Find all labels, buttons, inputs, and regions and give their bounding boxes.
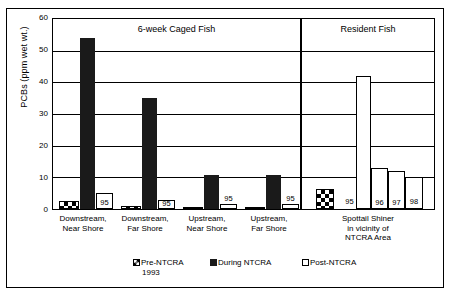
bar-post-ntcra-downstream-far-shore[interactable]: 95: [158, 200, 175, 209]
bar-during-ntcra-downstream-far-shore[interactable]: [142, 98, 157, 209]
bar-year-label: 95: [97, 199, 112, 207]
legend-label-during-ntcra: During NTCRA: [218, 258, 271, 267]
legend-swatch-pre-ntcra-icon: [133, 259, 140, 266]
legend-sublabel-pre-ntcra-year: 1993: [142, 268, 184, 278]
bar-year-label: 97: [389, 199, 404, 207]
bar-post-ntcra-spottail-shiner-96[interactable]: 96: [371, 168, 388, 209]
bar-year-label: 95: [342, 198, 357, 206]
x-label-line-1: Upstream,: [238, 214, 300, 224]
x-label-downstream-far-shore: Downstream, Far Shore: [114, 214, 176, 233]
x-label-line-2: in vicinity of: [302, 224, 434, 234]
x-label-upstream-near-shore: Upstream, Near Shore: [176, 214, 238, 233]
bar-group-downstream-near-shore: 95: [53, 19, 115, 209]
x-label-line-2: Near Shore: [176, 224, 238, 234]
y-tick-30: 30: [14, 110, 48, 118]
x-label-line-2: Far Shore: [238, 224, 300, 234]
bar-during-ntcra-downstream-near-shore[interactable]: [80, 38, 95, 209]
bar-post-ntcra-upstream-near-shore[interactable]: [220, 204, 237, 209]
bar-post-ntcra-upstream-far-shore[interactable]: [282, 204, 299, 209]
bar-group-upstream-near-shore: 95: [177, 19, 239, 209]
y-tick-40: 40: [14, 78, 48, 86]
y-tick-0: 0: [14, 206, 48, 214]
bar-year-label: 96: [372, 199, 387, 207]
bar-post-ntcra-spottail-shiner-97[interactable]: 97: [388, 171, 405, 209]
plot-area: 6-week Caged Fish Resident Fish 95 95 95: [52, 18, 435, 210]
legend-swatch-post-ntcra-icon: [302, 259, 309, 266]
bar-post-ntcra-spottail-shiner-98[interactable]: 98: [405, 177, 423, 209]
y-tick-20: 20: [14, 142, 48, 150]
bar-pre-ntcra-upstream-far-shore[interactable]: [245, 207, 265, 209]
chart-legend: Pre-NTCRA 1993 During NTCRA Post-NTCRA: [52, 252, 435, 282]
x-label-line-2: Far Shore: [114, 224, 176, 234]
x-label-line-2: Near Shore: [52, 224, 114, 234]
x-label-spottail-shiner: Spottail Shiner in vicinity of NTCRA Are…: [302, 214, 434, 243]
y-tick-10: 10: [14, 174, 48, 182]
y-tick-60: 60: [14, 14, 48, 22]
x-label-line-1: Downstream,: [114, 214, 176, 224]
legend-label-pre-ntcra: Pre-NTCRA: [141, 258, 184, 267]
chart-page: PCBs (ppm wet wt.) 60 50 40 30 20 10 0 6…: [0, 0, 452, 296]
bar-year-label: 98: [406, 198, 422, 206]
bar-year-label: 95: [159, 200, 174, 208]
bar-pre-ntcra-upstream-near-shore[interactable]: [183, 207, 203, 209]
legend-item-pre-ntcra[interactable]: Pre-NTCRA 1993: [133, 258, 184, 277]
legend-item-post-ntcra[interactable]: Post-NTCRA: [302, 258, 356, 268]
legend-swatch-during-ntcra-icon: [210, 259, 217, 266]
bar-during-ntcra-upstream-far-shore[interactable]: [266, 175, 281, 209]
legend-label-post-ntcra: Post-NTCRA: [310, 258, 356, 267]
x-label-line-1: Spottail Shiner: [302, 214, 434, 224]
bar-pre-ntcra-downstream-near-shore[interactable]: [59, 201, 79, 209]
bar-post-ntcra-downstream-near-shore[interactable]: 95: [96, 193, 113, 209]
x-label-line-1: Upstream,: [176, 214, 238, 224]
legend-item-during-ntcra[interactable]: During NTCRA: [210, 258, 271, 268]
bar-group-upstream-far-shore: 95: [239, 19, 301, 209]
y-tick-50: 50: [14, 46, 48, 54]
bar-post-ntcra-spottail-shiner-95[interactable]: 95: [356, 76, 371, 209]
bar-pre-ntcra-spottail-shiner[interactable]: [316, 189, 334, 209]
bar-group-spottail-shiner: 95 96 97 98: [303, 19, 434, 209]
bar-pre-ntcra-downstream-far-shore[interactable]: [121, 206, 141, 209]
x-label-upstream-far-shore: Upstream, Far Shore: [238, 214, 300, 233]
x-label-downstream-near-shore: Downstream, Near Shore: [52, 214, 114, 233]
x-label-line-3: NTCRA Area: [302, 233, 434, 243]
bar-year-label: 95: [220, 195, 237, 203]
x-label-line-1: Downstream,: [52, 214, 114, 224]
bar-group-downstream-far-shore: 95: [115, 19, 177, 209]
bar-during-ntcra-upstream-near-shore[interactable]: [204, 175, 219, 209]
bar-year-label: 95: [282, 195, 299, 203]
